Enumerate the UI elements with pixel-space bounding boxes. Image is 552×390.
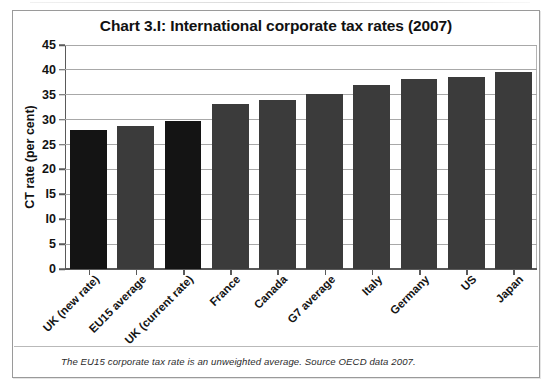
- y-tick-label-10: I0: [46, 212, 56, 226]
- y-tick-label-5: 5: [49, 237, 56, 251]
- y-tick-label-45: 45: [42, 38, 56, 52]
- chart-footnote: The EU15 corporate tax rate is an unweig…: [61, 356, 416, 367]
- x-axis-label: US: [459, 273, 479, 293]
- x-axis-label: Italy: [360, 273, 385, 298]
- x-axis-label: Germany: [388, 273, 432, 317]
- bar-series: [65, 45, 537, 269]
- bar[interactable]: [353, 85, 390, 269]
- x-axis-category-labels: UK (new rate)EU15 averageUK (current rat…: [65, 273, 537, 351]
- y-tick-label-35: 35: [42, 88, 56, 102]
- bar[interactable]: [70, 130, 107, 269]
- y-tick-label-30: 30: [42, 113, 56, 127]
- scan-artifact-line: [30, 2, 530, 3]
- x-axis-label: G7 average: [285, 273, 337, 325]
- y-axis-title-label: CT rate (per cent): [23, 105, 37, 209]
- x-axis-label: France: [208, 273, 243, 308]
- bar[interactable]: [165, 121, 202, 269]
- y-tick-label-40: 40: [42, 63, 56, 77]
- y-tick-label-15: I5: [46, 187, 56, 201]
- bar[interactable]: [495, 72, 532, 269]
- y-tick-label-0: 0: [49, 262, 56, 276]
- bar[interactable]: [259, 100, 296, 269]
- x-axis-label: Japan: [494, 273, 526, 305]
- y-tick-label-25: 25: [42, 138, 56, 152]
- bar[interactable]: [401, 79, 438, 269]
- plot-area: 05I0I5202530354045: [65, 45, 537, 269]
- bar[interactable]: [117, 126, 154, 269]
- y-tick-label-20: 20: [42, 162, 56, 176]
- chart-title: Chart 3.I: International corporate tax r…: [13, 17, 539, 35]
- bar[interactable]: [212, 104, 249, 269]
- x-axis-label: Canada: [252, 273, 290, 311]
- footnote-divider: [14, 346, 538, 347]
- bar[interactable]: [448, 77, 485, 269]
- y-axis-title: CT rate (per cent): [21, 45, 39, 269]
- bar[interactable]: [306, 94, 343, 269]
- chart-figure-frame: Chart 3.I: International corporate tax r…: [12, 10, 540, 378]
